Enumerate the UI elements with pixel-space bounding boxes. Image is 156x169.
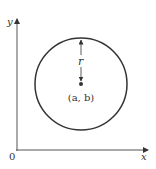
y-axis-label: y	[6, 16, 13, 27]
x-axis-label: x	[141, 151, 147, 162]
center-label: (a, b)	[68, 92, 95, 103]
origin-label: 0	[9, 151, 15, 162]
circle-diagram: r (a, b) y x 0	[0, 0, 156, 169]
center-point	[79, 82, 83, 86]
radius-label: r	[78, 55, 84, 68]
